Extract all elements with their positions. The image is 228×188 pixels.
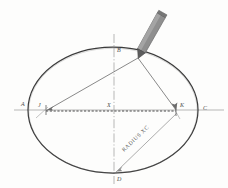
label-center: X [106, 102, 111, 108]
pencil-icon [138, 10, 167, 58]
string-left-focus-to-pencil [47, 58, 139, 111]
ellipse-diagram: A B C D X J K RADIUS XC [0, 0, 228, 188]
right-focus-tail [176, 112, 180, 119]
label-left-vertex: A [20, 101, 25, 107]
label-radius-note: RADIUS XC [121, 124, 151, 153]
arrowhead-left-focus [47, 106, 54, 110]
arrowhead-radius-bottom [117, 167, 123, 172]
label-left-focus: J [38, 102, 41, 108]
label-top-vertex: B [117, 47, 121, 53]
label-bottom-vertex: D [116, 176, 122, 182]
label-right-focus: K [179, 102, 185, 108]
string-pencil-to-right-focus [138, 58, 176, 110]
radius-line-kc [116, 113, 177, 172]
figure-canvas: A B C D X J K RADIUS XC [0, 0, 228, 188]
arrowhead-right-focus [172, 102, 178, 110]
